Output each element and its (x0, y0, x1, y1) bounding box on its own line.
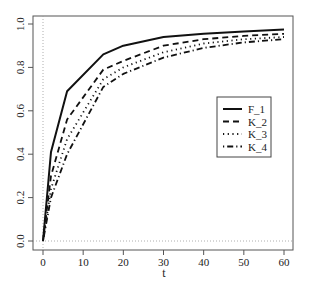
x-tick-label: 0 (40, 256, 46, 268)
y-tick-label: 0.0 (14, 234, 26, 248)
chart-canvas: 0102030405060 0.00.20.40.60.81.0 t F_1K_… (0, 0, 309, 290)
legend-label: K_3 (248, 128, 267, 140)
y-tick-label: 1.0 (14, 17, 26, 31)
legend: F_1K_2K_3K_4 (217, 97, 271, 157)
y-axis: 0.00.20.40.60.81.0 (14, 17, 33, 248)
x-tick-label: 50 (238, 256, 250, 268)
y-tick-label: 0.8 (14, 60, 26, 74)
legend-label: K_4 (248, 141, 267, 153)
legend-label: F_1 (248, 103, 265, 115)
x-tick-label: 10 (78, 256, 90, 268)
x-tick-label: 40 (198, 256, 210, 268)
y-tick-label: 0.2 (14, 191, 26, 205)
y-tick-label: 0.6 (14, 103, 26, 117)
x-tick-label: 20 (118, 256, 130, 268)
x-tick-label: 60 (279, 256, 291, 268)
y-tick-label: 0.4 (14, 147, 26, 161)
x-axis-label: t (162, 266, 166, 280)
line-chart: 0102030405060 0.00.20.40.60.81.0 t F_1K_… (0, 0, 309, 290)
legend-label: K_2 (248, 116, 267, 128)
